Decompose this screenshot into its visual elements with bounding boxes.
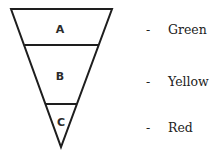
segment-a-label: A [56, 23, 65, 36]
legend-dash: - [146, 74, 168, 89]
legend-item-yellow: - Yellow [146, 72, 209, 90]
legend-item-red: - Red [146, 118, 193, 136]
segment-b-label: B [56, 70, 64, 83]
legend-dash: - [146, 120, 168, 135]
legend-label-red: Red [168, 120, 193, 135]
segment-c-label: C [57, 116, 65, 129]
legend-label-green: Green [168, 22, 207, 37]
legend-dash: - [146, 22, 168, 37]
legend-label-yellow: Yellow [168, 74, 209, 89]
legend-item-green: - Green [146, 20, 207, 38]
